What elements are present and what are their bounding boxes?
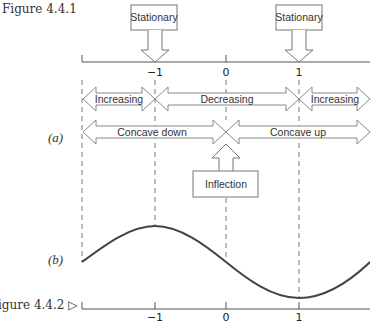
concave-up-label: Concave up bbox=[270, 126, 326, 138]
bottom-axis bbox=[82, 302, 370, 309]
top-axis bbox=[82, 55, 370, 62]
top-tick-0: 0 bbox=[223, 66, 230, 79]
bottom-tick-neg1: −1 bbox=[147, 311, 163, 323]
increasing-left-label: Increasing bbox=[95, 93, 144, 105]
dashed-guides bbox=[82, 80, 299, 298]
concave-down-label: Concave down bbox=[117, 126, 187, 138]
top-tick-1: 1 bbox=[296, 66, 303, 79]
top-tick-neg1: −1 bbox=[147, 66, 163, 79]
bottom-tick-0: 0 bbox=[223, 311, 230, 323]
increasing-right-label: Increasing bbox=[311, 93, 360, 105]
bottom-tick-1: 1 bbox=[296, 311, 303, 323]
inflection-label: Inflection bbox=[205, 178, 247, 190]
diagram-canvas: −1 0 1 Stationary Stationary Increasing … bbox=[0, 0, 370, 323]
stationary-right-label: Stationary bbox=[275, 11, 323, 23]
stationary-left-label: Stationary bbox=[130, 11, 178, 23]
decreasing-label: Decreasing bbox=[200, 93, 253, 105]
